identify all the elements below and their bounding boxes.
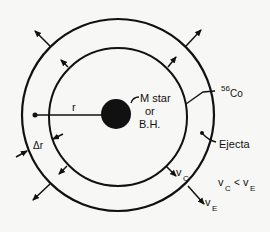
cobalt-symbol: Co — [230, 88, 243, 99]
velocity-inequality: v C < v E — [218, 176, 255, 193]
ejecta-label: Ejecta — [219, 138, 250, 150]
svg-text:C: C — [183, 174, 189, 183]
svg-text:C: C — [225, 184, 231, 193]
v-e-label: v E — [205, 196, 217, 213]
svg-text:v: v — [218, 176, 224, 188]
svg-text:v: v — [205, 196, 211, 208]
central-compact-object — [101, 99, 131, 129]
svg-text:E: E — [250, 184, 255, 193]
svg-text:E: E — [212, 204, 217, 213]
ejecta-marker — [200, 131, 216, 142]
core-label-line2: or — [145, 105, 155, 117]
core-label-line1: M star — [140, 92, 171, 104]
radius-label: r — [72, 101, 76, 113]
radius-line — [33, 113, 103, 118]
ejecta-shell-diagram: r M star or B.H. 56 Co Ejecta Δr v C v — [0, 0, 270, 232]
thickness-label: Δr — [33, 140, 44, 151]
core-label-leader — [131, 97, 139, 103]
core-label-line3: B.H. — [139, 118, 160, 130]
svg-text:v: v — [243, 176, 249, 188]
v-c-label: v C — [176, 166, 189, 183]
svg-text:<: < — [234, 177, 240, 188]
svg-text:v: v — [176, 166, 182, 178]
